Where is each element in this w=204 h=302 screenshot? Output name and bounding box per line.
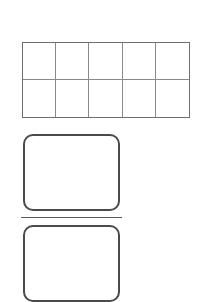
ten-frame-cell[interactable] <box>56 80 89 117</box>
ten-frame <box>22 42 190 118</box>
ten-frame-cell[interactable] <box>156 80 189 117</box>
ten-frame-cell[interactable] <box>56 43 89 80</box>
ten-frame-cell[interactable] <box>156 43 189 80</box>
ten-frame-cell[interactable] <box>123 43 156 80</box>
ten-frame-cell[interactable] <box>23 43 56 80</box>
ten-frame-cell[interactable] <box>89 43 122 80</box>
divider-rule <box>21 217 122 218</box>
ten-frame-cell[interactable] <box>89 80 122 117</box>
answer-box-1[interactable] <box>23 134 120 211</box>
ten-frame-cell[interactable] <box>123 80 156 117</box>
ten-frame-cell[interactable] <box>23 80 56 117</box>
answer-box-2[interactable] <box>23 225 120 302</box>
